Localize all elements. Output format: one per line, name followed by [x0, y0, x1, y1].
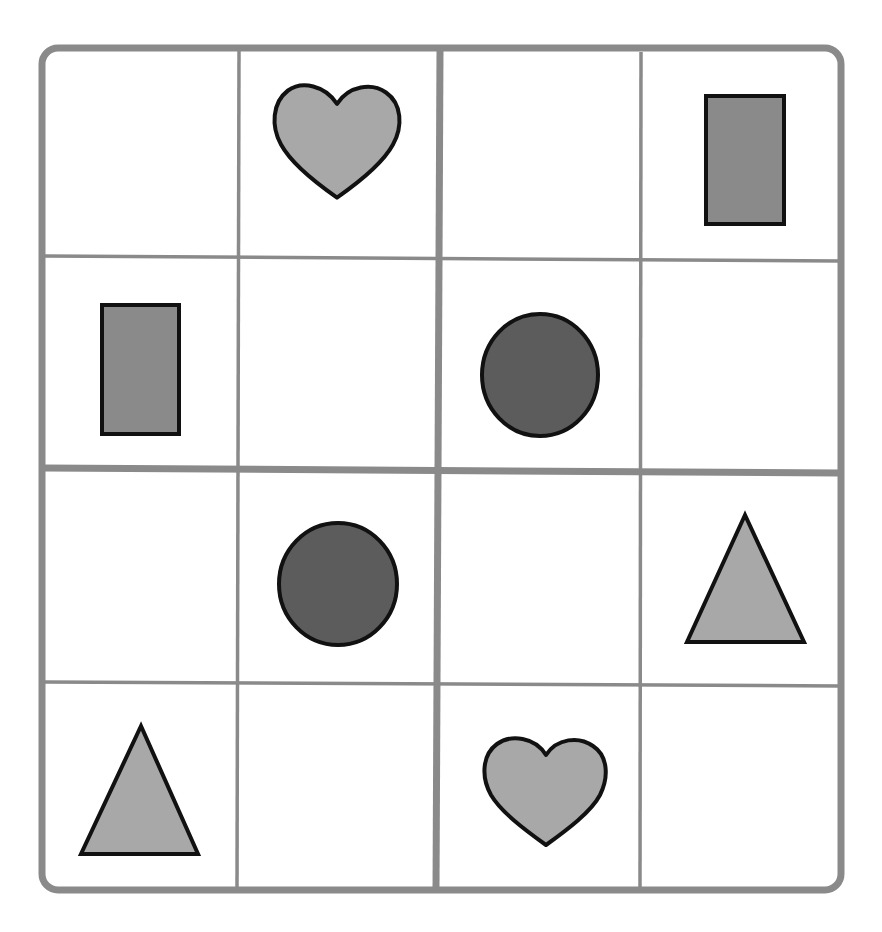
rectangle-icon: [706, 96, 784, 224]
cell-r1c2[interactable]: [241, 54, 436, 254]
cell-r2c1[interactable]: [48, 262, 236, 465]
cell-r2c4[interactable]: [644, 262, 837, 465]
cell-r3c2[interactable]: [241, 474, 436, 680]
cell-r2c2[interactable]: [241, 262, 436, 465]
cell-r4c3[interactable]: [443, 688, 638, 886]
cell-r3c3[interactable]: [443, 474, 638, 680]
circle-icon: [279, 523, 397, 645]
cell-r3c1[interactable]: [48, 474, 236, 680]
cell-r4c4[interactable]: [644, 688, 837, 886]
cell-r1c3[interactable]: [443, 54, 638, 254]
cell-r4c2[interactable]: [241, 688, 436, 886]
shape-sudoku-board: [0, 0, 882, 932]
cell-r3c4[interactable]: [644, 474, 837, 680]
cell-r1c1[interactable]: [48, 54, 236, 254]
cell-r4c1[interactable]: [48, 688, 236, 886]
rectangle-icon: [102, 305, 179, 434]
cell-r2c3[interactable]: [443, 262, 638, 465]
cell-r1c4[interactable]: [644, 54, 837, 254]
circle-icon: [482, 314, 598, 436]
